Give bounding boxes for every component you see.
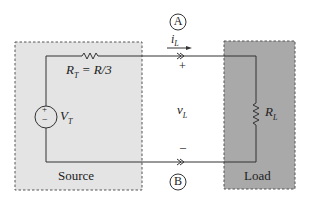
voltage-subscript: L <box>183 111 187 120</box>
load-box-label: Load <box>244 168 271 184</box>
terminal-b-label: B <box>172 174 184 189</box>
voltage-source-label: VT <box>60 108 72 126</box>
thevenin-resistor-label: RT = R/3 <box>66 62 112 80</box>
voltage-minus-sign: – <box>180 140 186 155</box>
load-box <box>224 41 295 189</box>
rl-symbol: R <box>265 104 273 119</box>
rt-symbol: R <box>66 62 74 77</box>
current-label: iL <box>171 32 179 48</box>
vt-subscript: T <box>68 117 72 126</box>
vt-symbol: V <box>60 108 68 123</box>
current-arrowhead-icon <box>186 46 192 50</box>
voltage-plus-sign: + <box>179 59 186 74</box>
current-subscript: L <box>174 39 178 48</box>
terminal-a-label: A <box>172 14 184 29</box>
load-resistor-label: RL <box>265 104 277 122</box>
rt-equation: = R/3 <box>78 62 111 77</box>
voltage-source-minus: − <box>42 114 48 125</box>
voltage-label: vL <box>177 102 187 120</box>
voltage-source-plus: + <box>42 104 47 114</box>
source-box-label: Source <box>58 168 94 184</box>
rl-subscript: L <box>273 113 277 122</box>
